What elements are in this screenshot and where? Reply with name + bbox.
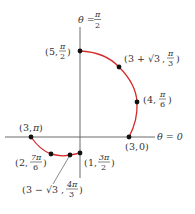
svg-text:): ) (111, 157, 115, 168)
svg-text:): ) (39, 122, 43, 133)
svg-text:,: , (29, 122, 32, 133)
point-3plusroot3-pi-3 (117, 65, 122, 70)
label-5-pi-2: ( 5 , π 2 ) (45, 42, 71, 61)
point-4-pi-6 (135, 100, 140, 105)
label-4-pi-6: ( 4 , π 6 ) (143, 90, 172, 109)
vertical-axis-label: θ = π 2 (78, 10, 101, 30)
point-3-pi (29, 135, 34, 140)
point-3minusroot3-4pi-3 (68, 153, 73, 158)
svg-text:): ) (176, 53, 180, 64)
polar-axis-label: θ = 0 (157, 131, 183, 142)
svg-text:7π: 7π (31, 153, 42, 162)
svg-text:3 + √3: 3 + √3 (128, 53, 160, 64)
label-2-7pi-6: ( 2 , 7π 6 ) (15, 153, 47, 172)
svg-text:,: , (162, 53, 165, 64)
label-1-3pi-2: ( 1 , 3π 2 ) (84, 153, 115, 172)
point-3-0 (127, 135, 132, 140)
svg-text:,: , (153, 94, 156, 105)
svg-text:): ) (145, 141, 149, 152)
svg-text:3: 3 (69, 190, 74, 199)
svg-text:): ) (67, 46, 71, 57)
svg-text:3π: 3π (99, 153, 110, 162)
svg-text:6: 6 (33, 163, 38, 172)
svg-text:): ) (43, 157, 47, 168)
svg-text:): ) (168, 94, 172, 105)
svg-text:2: 2 (95, 21, 100, 30)
svg-text:π: π (167, 49, 174, 58)
svg-text:,: , (25, 157, 28, 168)
svg-text:2: 2 (101, 163, 106, 172)
polar-diagram: θ = π 2 θ = 0 ( 5 , π 2 ) ( 3 + √3 , π 3… (0, 0, 195, 214)
svg-text:π: π (94, 10, 101, 19)
svg-text:,: , (55, 46, 58, 57)
svg-text:π: π (159, 90, 166, 99)
point-1-3pi-2 (78, 151, 83, 156)
label-3-0: ( 3 , 0 ) (125, 141, 149, 152)
label-3plusroot3-pi-3: ( 3 + √3 , π 3 ) (124, 49, 180, 68)
svg-text:π: π (59, 42, 66, 51)
svg-text:3: 3 (168, 59, 173, 68)
svg-text:6: 6 (160, 100, 165, 109)
svg-text:,: , (94, 157, 97, 168)
svg-text:θ =: θ = (78, 14, 95, 25)
point-5-pi-2 (78, 49, 83, 54)
label-3minusroot3-4pi-3: ( 3 − √3 , 4π 3 ) (22, 180, 83, 199)
svg-text:3 − √3: 3 − √3 (26, 184, 58, 195)
svg-text:): ) (79, 184, 83, 195)
label-3-pi: ( 3 , π ) (19, 122, 43, 133)
svg-text:4π: 4π (66, 180, 78, 189)
svg-text:,: , (135, 141, 138, 152)
svg-text:2: 2 (60, 52, 65, 61)
point-2-7pi-6 (49, 152, 54, 157)
svg-text:,: , (61, 184, 64, 195)
